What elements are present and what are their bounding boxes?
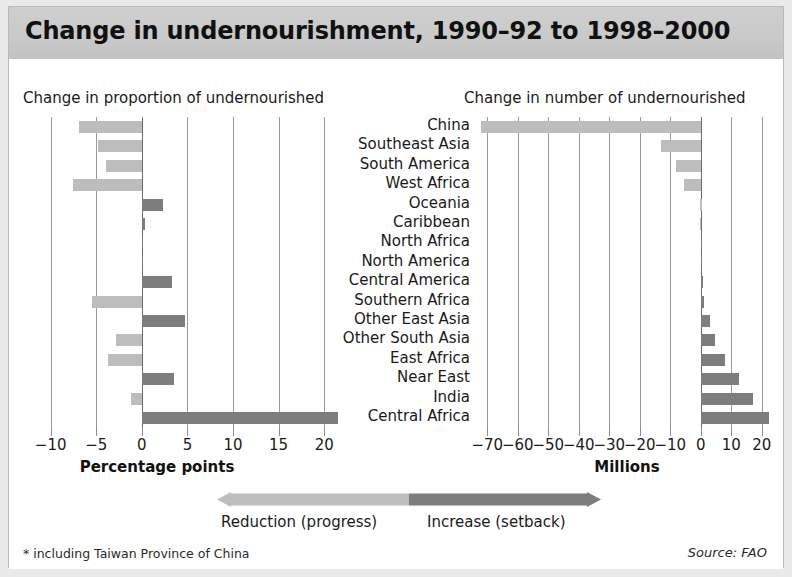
category-label: India [433,388,470,407]
bar-row [37,175,347,194]
bar-other-south-asia [701,334,715,346]
bar-row [472,272,774,291]
category-label: South America [360,155,470,174]
axis-tick--60 [518,427,519,436]
bar-row [472,330,774,349]
left-panel-heading: Change in proportion of undernourished [23,89,324,107]
bar-row [472,389,774,408]
bar-row [37,408,347,427]
category-label: Southeast Asia [358,135,470,154]
category-label: North Africa [380,232,470,251]
axis-tick-label--50: −50 [532,436,564,454]
bar-oceania [142,199,163,211]
bar-caribbean [700,218,702,230]
bar-central-america [142,276,172,288]
bar-southeast-asia [661,140,701,152]
axis-tick-label-10: 10 [722,436,741,454]
bar-southeast-asia [98,140,142,152]
bar-other-east-asia [701,315,710,327]
axis-tick--50 [548,427,549,436]
axis-tick--5 [96,427,97,436]
bar-north-africa [142,237,144,249]
bar-row [472,195,774,214]
bar-central-america [701,276,703,288]
bar-row [37,292,347,311]
legend: Reduction (progress) Increase (setback) [199,491,619,551]
bar-west-africa [73,179,141,191]
bar-row [37,350,347,369]
bar-row [37,311,347,330]
bar-row [37,369,347,388]
left-axis-title: Percentage points [80,458,235,476]
axis-tick--10 [51,427,52,436]
right-chart-xaxis: Millions −70−60−50−40−30−20−1001020 [472,427,774,461]
bar-row [472,214,774,233]
bar-southern-africa [701,296,705,308]
category-label: East Africa [390,349,470,368]
bar-row [472,233,774,252]
right-chart-plot [472,117,774,427]
axis-tick-label--40: −40 [563,436,595,454]
right-panel-heading: Change in number of undernourished [464,89,745,107]
axis-tick-label-10: 10 [223,436,242,454]
axis-tick-label-0: 0 [696,436,706,454]
axis-tick--40 [579,427,580,436]
category-label: China [427,116,470,135]
left-chart-plot [37,117,347,427]
axis-tick-label--10: −10 [654,436,686,454]
bar-north-america [142,257,144,269]
bar-other-south-asia [116,334,142,346]
axis-tick-label--20: −20 [624,436,656,454]
source-note: Source: FAO [688,545,767,560]
bar-row [472,311,774,330]
axis-tick-label-20: 20 [752,436,771,454]
figure-card: Change in undernourishment, 1990–92 to 1… [8,6,784,568]
bar-south-america [676,160,700,172]
axis-tick-label-5: 5 [183,436,193,454]
bar-near-east [142,373,174,385]
category-label: Central Africa [368,407,470,426]
bar-southern-africa [92,296,142,308]
category-label: North America [361,252,470,271]
bar-row [37,214,347,233]
right-axis-title: Millions [594,458,659,476]
bar-east-africa [701,354,725,366]
bar-row [472,136,774,155]
category-label: Caribbean [393,213,470,232]
axis-tick-label-0: 0 [137,436,147,454]
bar-row [472,117,774,136]
bar-central-africa [701,412,770,424]
axis-tick--70 [487,427,488,436]
page-title: Change in undernourishment, 1990–92 to 1… [25,17,730,45]
category-label-column: ChinaSoutheast AsiaSouth AmericaWest Afr… [347,117,472,427]
plot-area: Change in proportion of undernourished C… [9,59,783,569]
bar-row [472,408,774,427]
bar-row [37,330,347,349]
bar-other-east-asia [142,315,185,327]
bar-row [37,117,347,136]
axis-tick-label-15: 15 [269,436,288,454]
bar-row [472,156,774,175]
category-label: West Africa [386,174,470,193]
bar-east-africa [108,354,142,366]
bar-central-africa [142,412,338,424]
axis-tick-label--5: −5 [85,436,107,454]
bar-row [472,350,774,369]
axis-tick-5 [187,427,188,436]
bar-north-africa [701,237,703,249]
category-label: Central America [349,271,470,290]
axis-tick-label-20: 20 [315,436,334,454]
axis-tick-label--60: −60 [502,436,534,454]
bar-row [472,253,774,272]
category-label: Other East Asia [354,310,470,329]
axis-tick-10 [731,427,732,436]
axis-tick-10 [233,427,234,436]
bar-row [37,253,347,272]
bar-row [472,369,774,388]
bar-row [37,195,347,214]
bar-china [79,121,142,133]
axis-tick-20 [762,427,763,436]
bar-row [472,292,774,311]
axis-tick-0 [701,427,702,436]
axis-tick--10 [670,427,671,436]
